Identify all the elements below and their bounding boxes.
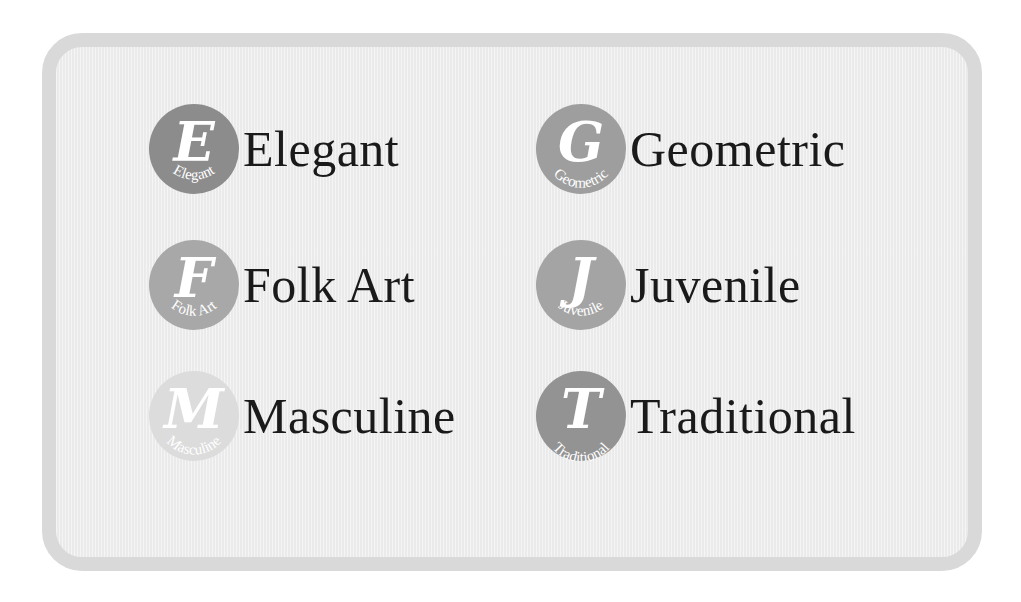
svg-text:Juvenile: Juvenile [556,297,606,319]
badge-curved-text: Juvenile [536,240,626,330]
juvenile-badge-icon: J Juvenile [536,240,626,330]
elegant-badge-icon: E Elegant [149,104,239,194]
badge-curved-text: Folk Art [149,240,239,330]
traditional-badge-icon: T Traditional [536,371,626,461]
style-label: Traditional [630,386,856,446]
style-label: Elegant [243,119,399,179]
folk-art-badge-icon: F Folk Art [149,240,239,330]
svg-text:Folk Art: Folk Art [169,296,220,319]
badge-curved-text: Geometric [536,104,626,194]
style-item-masculine: M Masculine Masculine [149,370,456,462]
style-label: Folk Art [243,255,415,315]
badge-curved-text: Elegant [149,104,239,194]
style-legend-panel: E Elegant Elegant G Geometric Geometric … [42,33,982,571]
svg-text:Geometric: Geometric [551,165,611,191]
style-label: Masculine [243,386,456,446]
style-item-geometric: G Geometric Geometric [536,103,846,195]
geometric-badge-icon: G Geometric [536,104,626,194]
style-item-juvenile: J Juvenile Juvenile [536,239,801,331]
masculine-badge-icon: M Masculine [149,371,239,461]
svg-text:Traditional: Traditional [550,439,612,461]
style-label: Geometric [630,119,846,179]
style-item-traditional: T Traditional Traditional [536,370,856,462]
style-item-folk-art: F Folk Art Folk Art [149,239,415,331]
style-label: Juvenile [630,255,801,315]
svg-text:Masculine: Masculine [164,432,224,458]
badge-curved-text: Masculine [149,371,239,461]
style-item-elegant: E Elegant Elegant [149,103,399,195]
svg-text:Elegant: Elegant [171,161,218,182]
badge-curved-text: Traditional [536,371,626,461]
